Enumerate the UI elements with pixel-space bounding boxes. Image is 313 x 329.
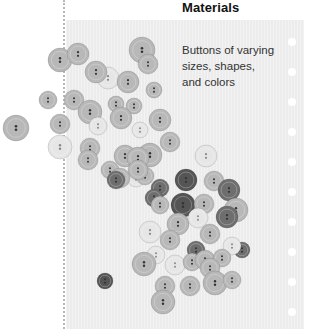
sewing-button <box>3 115 29 141</box>
sewing-button <box>117 71 139 93</box>
sewing-button <box>160 132 180 152</box>
sewing-button <box>175 169 197 191</box>
sewing-button <box>180 276 200 296</box>
sewing-button <box>48 135 72 159</box>
sewing-button <box>138 54 158 74</box>
sewing-button <box>107 171 125 189</box>
sewing-button <box>151 290 175 314</box>
sewing-button <box>78 150 98 170</box>
sewing-button <box>110 107 132 129</box>
sewing-button <box>89 117 107 135</box>
sewing-button <box>216 206 238 228</box>
sewing-button <box>223 271 241 289</box>
sewing-button <box>151 196 169 214</box>
sewing-button <box>160 230 180 250</box>
sewing-button <box>97 273 113 289</box>
sewing-button <box>149 109 171 131</box>
sewing-button <box>39 91 57 109</box>
sewing-button <box>67 43 89 65</box>
buttons-illustration <box>0 0 313 329</box>
sewing-button <box>128 160 148 180</box>
sewing-button <box>139 221 161 243</box>
sewing-button <box>132 122 148 138</box>
sewing-button <box>200 224 220 244</box>
sewing-button <box>132 252 156 276</box>
sewing-button <box>165 255 185 275</box>
sewing-button <box>146 82 162 98</box>
sewing-button <box>195 145 217 167</box>
sewing-button <box>85 61 107 83</box>
sewing-button <box>50 114 70 134</box>
